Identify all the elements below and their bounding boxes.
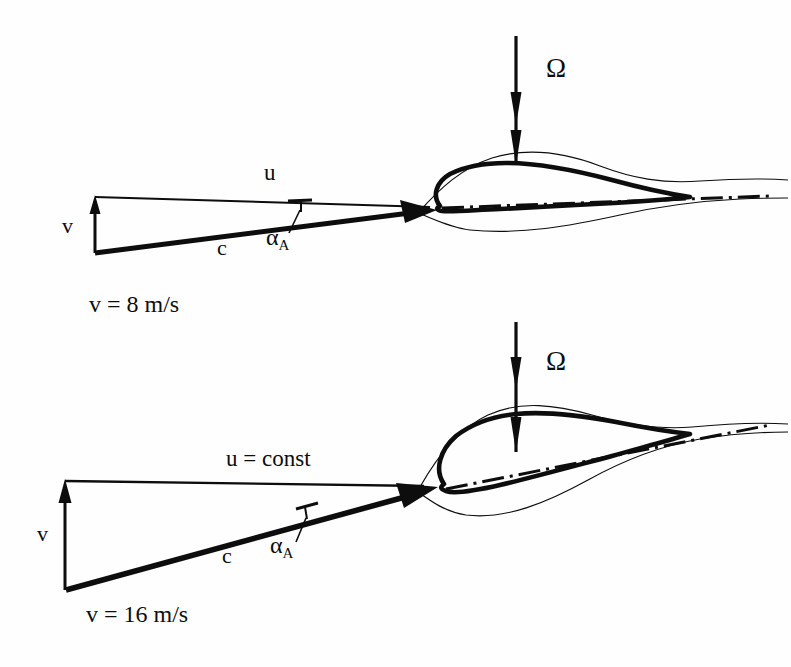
alpha-tick-top xyxy=(288,200,312,201)
omega-label-bottom: Ω xyxy=(546,348,566,375)
top-panel-graphics xyxy=(90,36,789,253)
v-vector-bottom xyxy=(59,479,72,590)
omega-arrowhead-upper xyxy=(511,92,522,125)
omega-arrowhead-lower xyxy=(511,130,522,165)
alpha-tick-stem-bottom xyxy=(305,507,307,519)
u-label-top: u xyxy=(264,161,276,184)
c-vector-bottom xyxy=(66,483,438,590)
alpha-leader-bottom xyxy=(296,518,306,542)
c-vector-shaft-top xyxy=(95,213,410,253)
caption-bottom: v = 16 m/s xyxy=(86,602,188,626)
omega-arrow-top xyxy=(511,36,522,165)
chord-line-top xyxy=(442,196,770,208)
chord-line-bottom xyxy=(446,425,770,489)
v-label-bottom: v xyxy=(37,523,48,545)
omega-label-top: Ω xyxy=(546,55,566,82)
c-label-top: c xyxy=(217,237,227,259)
v-label-top: v xyxy=(62,215,73,237)
alpha-subscript-bottom: A xyxy=(283,545,294,561)
alpha-symbol-bottom: α xyxy=(270,532,283,558)
omega-arrow-bottom xyxy=(511,322,522,452)
omega-arrowhead-lower-bottom xyxy=(511,417,522,452)
alpha-label-top: αA xyxy=(266,225,289,253)
aerodynamics-figure: Ω u v c αA v = 8 m/s Ω u = const v c αA … xyxy=(0,0,791,667)
diagram-canvas xyxy=(0,0,791,667)
alpha-tick-bottom xyxy=(296,503,318,509)
alpha-symbol-top: α xyxy=(266,224,279,250)
bottom-panel-graphics xyxy=(59,322,789,590)
v-vector-top xyxy=(90,195,101,253)
alpha-label-bottom: αA xyxy=(270,533,293,561)
c-arrowhead-top xyxy=(400,200,437,223)
v-arrowhead-bottom xyxy=(59,479,72,503)
caption-top: v = 8 m/s xyxy=(89,292,179,316)
airfoil-outline-bottom xyxy=(439,413,690,492)
c-arrowhead-bottom xyxy=(396,483,438,508)
alpha-subscript-top: A xyxy=(279,237,290,253)
omega-arrowhead-upper-bottom xyxy=(511,357,522,390)
c-vector-shaft-bottom xyxy=(66,497,405,590)
streamline-lower-bottom xyxy=(418,432,788,516)
c-label-bottom: c xyxy=(222,545,232,567)
u-vector-top xyxy=(95,197,430,207)
u-vector-bottom xyxy=(65,481,424,486)
u-label-bottom: u = const xyxy=(226,447,311,470)
